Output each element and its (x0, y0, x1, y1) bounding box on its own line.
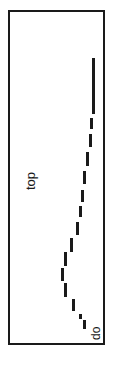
curve-dash-segment (83, 171, 86, 184)
curve-dash-segment (61, 268, 64, 281)
curve-dash-segment (92, 58, 95, 114)
curve-dash-segment (83, 320, 86, 329)
curve-dash-segment (64, 252, 67, 266)
curve-dash-segment (89, 134, 92, 147)
curve-dash-segment (70, 238, 73, 252)
axis-label-top: top (24, 172, 37, 190)
curve-dash-segment (81, 190, 84, 202)
curve-dash-segment (79, 314, 82, 319)
curve-dash-segment (90, 118, 93, 129)
figure-container: top do (0, 0, 114, 365)
axis-label-do: do (90, 327, 102, 340)
curve-dash-segment (79, 206, 82, 217)
curve-dash-segment (72, 299, 75, 311)
curve-dash-segment (76, 222, 79, 235)
curve-dash-segment (86, 152, 89, 166)
curve-dash-segment (64, 283, 67, 297)
